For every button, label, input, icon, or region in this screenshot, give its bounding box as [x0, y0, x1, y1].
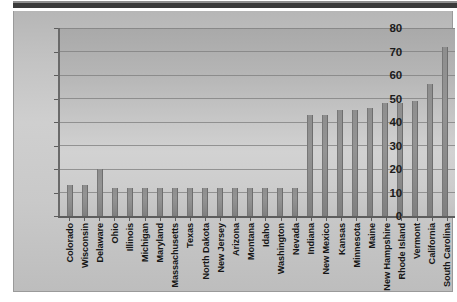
x-tick-slot — [168, 216, 183, 222]
x-axis-tick-labels: ColoradoWisconsinDelawareOhioIllinoisMic… — [60, 223, 457, 293]
x-tick-mark — [99, 216, 100, 221]
bar-slot — [152, 28, 167, 216]
x-label-slot: Texas — [183, 223, 198, 293]
x-tick-slot — [138, 216, 153, 222]
x-tick-label: Delaware — [95, 223, 105, 263]
x-tick-label: North Dakota — [201, 223, 211, 279]
bar-slot — [77, 28, 92, 216]
x-tick-label: Maryland — [155, 223, 165, 263]
x-tick-mark — [205, 216, 206, 221]
x-tick-label: New Jersey — [216, 223, 226, 273]
x-tick-label: Colorado — [65, 223, 75, 263]
x-label-slot: Maine — [364, 223, 379, 293]
x-tick-mark — [447, 216, 448, 221]
x-label-slot: Vermont — [410, 223, 425, 293]
y-tick-label: 70 — [374, 46, 402, 58]
bar-slot — [333, 28, 348, 216]
bar — [307, 115, 313, 216]
x-axis-tick-marks — [60, 216, 457, 222]
bar-slot — [182, 28, 197, 216]
bar — [232, 188, 238, 216]
x-tick-label: Nevada — [291, 223, 301, 255]
y-tick-label: 60 — [374, 69, 402, 81]
x-tick-mark — [145, 216, 146, 221]
bar — [247, 188, 253, 216]
x-label-slot: South Carolina — [440, 223, 455, 293]
bar-slot — [167, 28, 182, 216]
x-tick-mark — [84, 216, 85, 221]
bar-slot — [62, 28, 77, 216]
y-tick-label: 30 — [374, 140, 402, 152]
bar — [427, 84, 433, 216]
x-label-slot: North Dakota — [198, 223, 213, 293]
x-tick-slot — [289, 216, 304, 222]
bar-slot — [257, 28, 272, 216]
x-tick-slot — [274, 216, 289, 222]
x-tick-mark — [114, 216, 115, 221]
x-tick-slot — [258, 216, 273, 222]
chart-page: 01020304050607080 ColoradoWisconsinDelaw… — [0, 0, 457, 302]
x-label-slot: California — [425, 223, 440, 293]
x-tick-mark — [326, 216, 327, 221]
y-tick-label: 10 — [374, 187, 402, 199]
x-tick-label: Idaho — [261, 223, 271, 247]
bar-slot — [272, 28, 287, 216]
bar-slot — [137, 28, 152, 216]
x-label-slot: Wisconsin — [77, 223, 92, 293]
x-tick-slot — [364, 216, 379, 222]
x-tick-label: Montana — [246, 223, 256, 260]
x-tick-label: Illinois — [125, 223, 135, 251]
bar — [352, 110, 358, 216]
bar — [442, 47, 448, 216]
y-tick-label: 40 — [374, 116, 402, 128]
chart-frame: 01020304050607080 ColoradoWisconsinDelaw… — [13, 11, 453, 292]
bar-slot — [227, 28, 242, 216]
bar — [262, 188, 268, 216]
bar-slot — [318, 28, 333, 216]
bar — [367, 108, 373, 216]
bar — [292, 188, 298, 216]
x-tick-slot — [77, 216, 92, 222]
bar-slot — [423, 28, 438, 216]
x-tick-slot — [107, 216, 122, 222]
x-tick-slot — [319, 216, 334, 222]
bar — [97, 169, 103, 216]
x-tick-label: Ohio — [110, 223, 120, 244]
x-label-slot: Ohio — [107, 223, 122, 293]
x-tick-label: Minnesota — [352, 223, 362, 268]
x-tick-mark — [341, 216, 342, 221]
x-tick-slot — [425, 216, 440, 222]
x-tick-label: Rhode Island — [397, 223, 407, 279]
bar-slot — [303, 28, 318, 216]
x-tick-mark — [69, 216, 70, 221]
x-tick-slot — [243, 216, 258, 222]
x-tick-label: Maine — [367, 223, 377, 249]
bar — [112, 188, 118, 216]
bar-slot — [242, 28, 257, 216]
x-tick-mark — [190, 216, 191, 221]
x-label-slot: Michigan — [138, 223, 153, 293]
x-label-slot: Colorado — [62, 223, 77, 293]
bar — [142, 188, 148, 216]
page-top-rule — [13, 3, 457, 8]
y-tick-label: 80 — [374, 22, 402, 34]
x-label-slot: Massachusetts — [168, 223, 183, 293]
x-tick-slot — [213, 216, 228, 222]
x-tick-mark — [311, 216, 312, 221]
bar — [202, 188, 208, 216]
bar — [187, 188, 193, 216]
bar — [217, 188, 223, 216]
x-tick-label: Kansas — [337, 223, 347, 255]
x-label-slot: Rhode Island — [394, 223, 409, 293]
x-tick-label: Arizona — [231, 223, 241, 256]
x-tick-mark — [417, 216, 418, 221]
x-tick-slot — [122, 216, 137, 222]
x-label-slot: Delaware — [92, 223, 107, 293]
x-tick-mark — [371, 216, 372, 221]
x-tick-label: Vermont — [412, 223, 422, 259]
x-tick-label: Michigan — [140, 223, 150, 262]
x-tick-mark — [175, 216, 176, 221]
x-label-slot: Montana — [243, 223, 258, 293]
y-tick-label: 20 — [374, 163, 402, 175]
bar — [127, 188, 133, 216]
